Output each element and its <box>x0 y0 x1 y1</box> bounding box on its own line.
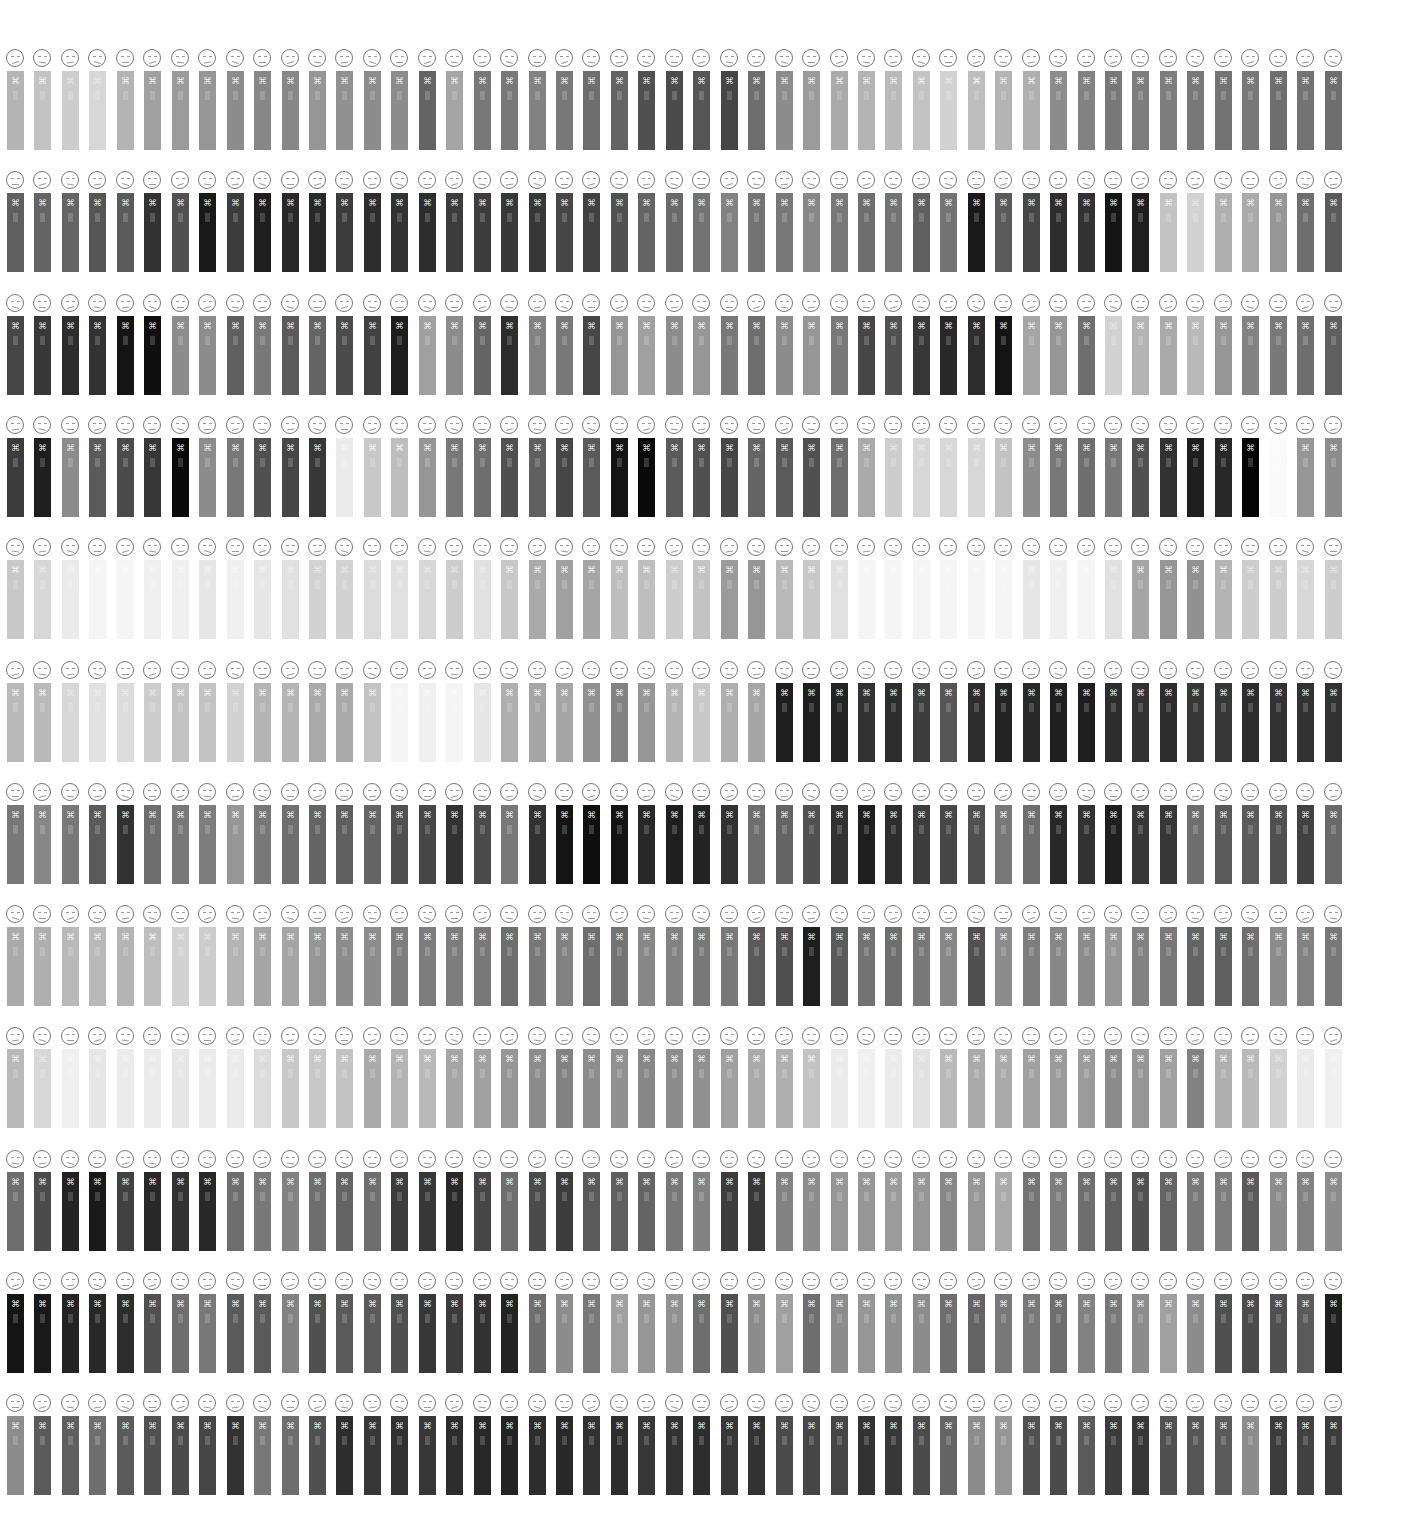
bar-label <box>288 1069 293 1078</box>
face-mouth <box>671 795 678 798</box>
face-eye <box>478 912 481 913</box>
value-bar: ⌘ <box>583 71 600 150</box>
hand-drawn-face-icon <box>390 49 408 67</box>
value-bar: ⌘ <box>336 1294 353 1373</box>
figure-emblem-icon: ⌘ <box>587 810 596 820</box>
value-bar: ⌘ <box>7 438 24 517</box>
value-bar: ⌘ <box>1160 316 1177 395</box>
hand-drawn-face-icon <box>1296 171 1314 189</box>
hand-drawn-face-icon <box>1324 905 1342 923</box>
hand-drawn-face-icon <box>308 538 326 556</box>
face-mouth <box>836 1040 843 1042</box>
face-eye <box>1005 1034 1008 1035</box>
face-eye <box>478 668 481 669</box>
figure-emblem-icon: ⌘ <box>780 688 789 698</box>
hand-drawn-face-icon <box>171 783 189 801</box>
value-bar: ⌘ <box>1023 316 1040 395</box>
hand-drawn-face-icon <box>61 783 79 801</box>
figure-emblem-icon: ⌘ <box>313 688 322 698</box>
value-bar: ⌘ <box>583 805 600 884</box>
face-eye <box>456 1034 459 1035</box>
face-eye <box>1027 56 1030 57</box>
hand-drawn-face-icon <box>1104 1394 1122 1412</box>
face-mouth <box>945 795 952 798</box>
face-eye <box>731 790 734 791</box>
face-eye <box>1280 1279 1283 1280</box>
face-eye <box>560 668 563 669</box>
face-mouth <box>1165 184 1172 186</box>
face-eye <box>231 790 234 791</box>
face-mouth <box>287 306 294 309</box>
value-bar: ⌘ <box>309 1049 326 1128</box>
figure-emblem-icon: ⌘ <box>505 932 514 942</box>
face-eye <box>670 1401 673 1402</box>
face-eye <box>1329 423 1332 424</box>
face-mouth <box>94 673 101 676</box>
bar-label <box>864 947 869 956</box>
value-bar: ⌘ <box>172 71 189 150</box>
face-eye <box>478 790 481 791</box>
face-eye <box>533 1401 536 1402</box>
figure-emblem-icon: ⌘ <box>1082 1421 1091 1431</box>
value-bar: ⌘ <box>62 438 79 517</box>
bar-label <box>342 213 347 222</box>
hand-drawn-face-icon <box>473 1272 491 1290</box>
figure-emblem-icon: ⌘ <box>423 565 432 575</box>
hand-drawn-face-icon <box>1159 1272 1177 1290</box>
face-eye <box>676 790 679 791</box>
face-eye <box>889 545 892 546</box>
hand-drawn-face-icon <box>500 171 518 189</box>
value-bar: ⌘ <box>803 683 820 762</box>
bar-label <box>1084 1192 1089 1201</box>
face-eye <box>560 1157 563 1158</box>
value-bar: ⌘ <box>748 1294 765 1373</box>
bar-label <box>589 703 594 712</box>
figure-emblem-icon: ⌘ <box>1109 443 1118 453</box>
bar-label <box>452 213 457 222</box>
face-mouth <box>973 917 980 920</box>
value-bar: ⌘ <box>1078 683 1095 762</box>
value-bar: ⌘ <box>89 71 106 150</box>
face-eye <box>923 1034 926 1035</box>
figure-emblem-icon: ⌘ <box>944 1177 953 1187</box>
value-bar: ⌘ <box>144 560 161 639</box>
value-bar: ⌘ <box>858 71 875 150</box>
face-eye <box>484 56 487 57</box>
bar-label <box>68 703 73 712</box>
value-bar: ⌘ <box>419 683 436 762</box>
figure-emblem-icon: ⌘ <box>1274 1054 1283 1064</box>
hand-drawn-face-icon <box>857 1150 875 1168</box>
face-eye <box>972 423 975 424</box>
face-mouth <box>918 1163 925 1164</box>
face-eye <box>1109 1034 1112 1035</box>
bar-label <box>40 703 45 712</box>
face-eye <box>231 301 234 302</box>
bar-label <box>672 1314 677 1323</box>
hand-drawn-face-icon <box>418 783 436 801</box>
face-eye <box>1252 912 1255 913</box>
value-bar: ⌘ <box>995 683 1012 762</box>
face-mouth <box>698 1407 705 1408</box>
bar-label <box>809 91 814 100</box>
bar-label <box>617 1314 622 1323</box>
figure-emblem-icon: ⌘ <box>231 198 240 208</box>
bar-label <box>68 1436 73 1445</box>
face-eye <box>1164 1157 1167 1158</box>
hand-drawn-face-icon <box>116 1150 134 1168</box>
figure-emblem-icon: ⌘ <box>670 1054 679 1064</box>
hand-drawn-face-icon <box>1186 538 1204 556</box>
face-mouth <box>588 1285 595 1287</box>
figure-emblem-icon: ⌘ <box>11 321 20 331</box>
figure-emblem-icon: ⌘ <box>670 565 679 575</box>
bar-label <box>782 213 787 222</box>
figure-emblem-icon: ⌘ <box>11 1421 20 1431</box>
bar-label <box>288 1436 293 1445</box>
face-mouth <box>314 795 321 798</box>
figure-emblem-icon: ⌘ <box>148 1299 157 1309</box>
figure-emblem-icon: ⌘ <box>121 76 130 86</box>
value-bar: ⌘ <box>1325 438 1342 517</box>
figure-emblem-icon: ⌘ <box>1219 810 1228 820</box>
face-eye <box>566 790 569 791</box>
figure-emblem-icon: ⌘ <box>752 1177 761 1187</box>
figure-emblem-icon: ⌘ <box>533 1054 542 1064</box>
